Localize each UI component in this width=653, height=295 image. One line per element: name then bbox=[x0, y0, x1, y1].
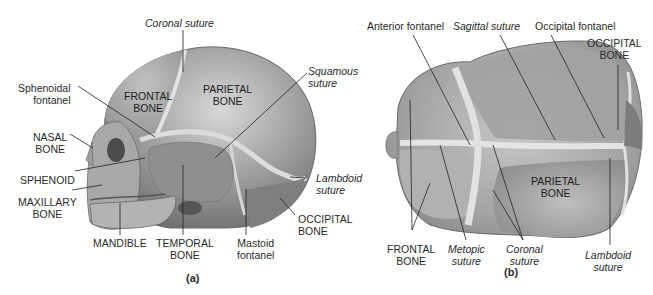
label-a-temporal-bone: TEMPORAL BONE bbox=[156, 237, 214, 261]
label-a-maxillary-bone: MAXILLARY BONE bbox=[18, 196, 77, 220]
infant-skull-figure: Coronal suture Squamous suture Sphenoida… bbox=[0, 0, 653, 295]
label-a-mastoid-fontanel: Mastoid fontanel bbox=[237, 237, 274, 261]
panel-a-caption: (a) bbox=[186, 272, 199, 284]
panel-b-caption: (b) bbox=[504, 266, 518, 278]
skull-lateral-view bbox=[86, 47, 316, 229]
label-a-sphenoidal-fontanel: Sphenoidal fontanel bbox=[18, 82, 71, 106]
label-a-nasal-bone: NASAL BONE bbox=[33, 131, 67, 155]
label-a-coronal-suture: Coronal suture bbox=[145, 17, 214, 29]
label-b-parietal-bone: PARIETAL BONE bbox=[531, 175, 580, 199]
label-a-squamous-suture: Squamous suture bbox=[308, 65, 358, 89]
label-b-anterior-fontanel: Anterior fontanel bbox=[367, 20, 444, 32]
label-a-lambdoid-suture: Lambdoid suture bbox=[316, 172, 362, 196]
label-a-parietal-bone: PARIETAL BONE bbox=[203, 83, 252, 107]
label-b-frontal-bone: FRONTAL BONE bbox=[387, 243, 435, 267]
label-b-lambdoid-suture: Lambdoid suture bbox=[585, 249, 631, 273]
label-b-metopic-suture: Metopic suture bbox=[448, 243, 485, 267]
label-a-mandible: MANDIBLE bbox=[93, 237, 147, 249]
skull-illustrations bbox=[0, 0, 653, 295]
label-a-sphenoid: SPHENOID bbox=[20, 174, 75, 186]
label-b-occipital-bone: OCCIPITAL BONE bbox=[587, 37, 642, 61]
label-b-sagittal-suture: Sagittal suture bbox=[453, 20, 520, 32]
label-b-occipital-fontanel: Occipital fontanel bbox=[535, 20, 616, 32]
label-a-occipital-bone: OCCIPITAL BONE bbox=[298, 213, 353, 237]
label-a-frontal-bone: FRONTAL BONE bbox=[124, 90, 172, 114]
label-b-coronal-suture: Coronal suture bbox=[506, 243, 543, 267]
skull-superior-view bbox=[386, 41, 643, 238]
